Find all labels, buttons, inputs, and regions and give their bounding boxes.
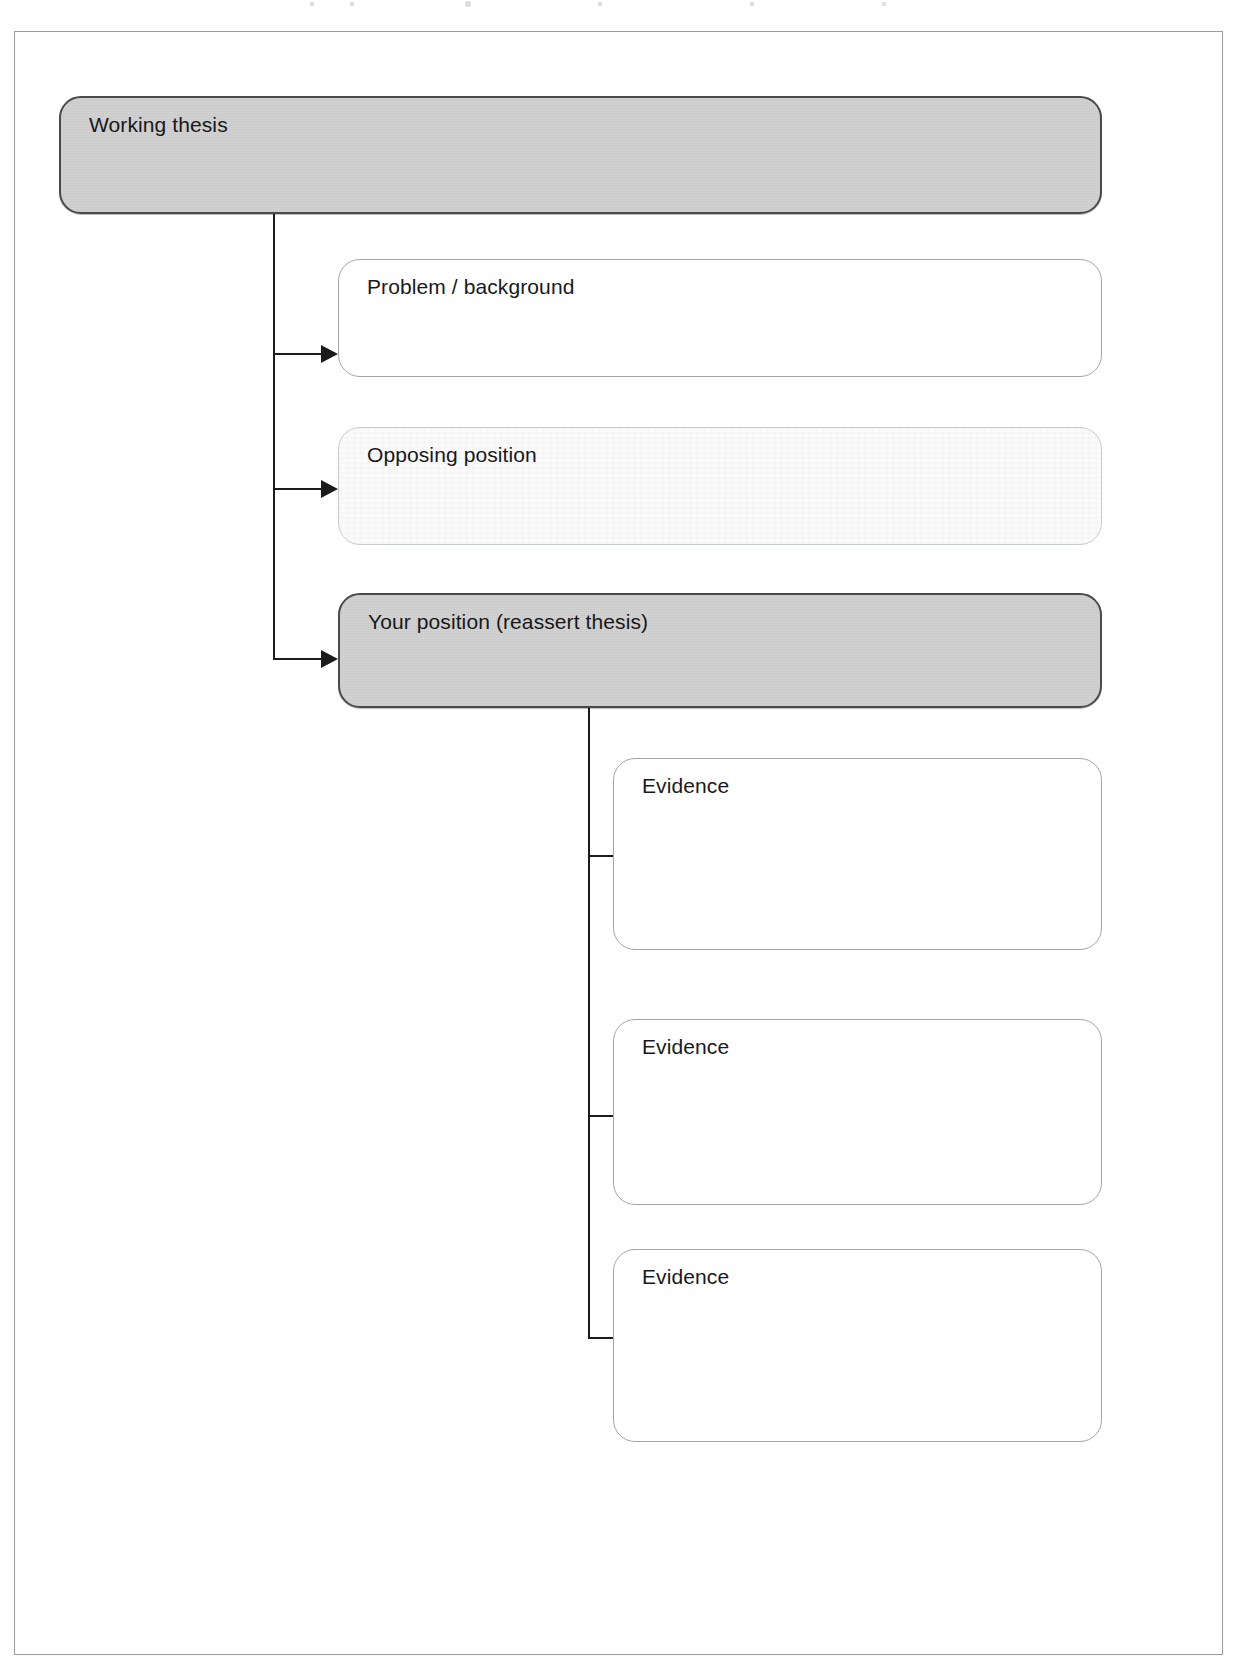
- node-label-opposing-position: Opposing position: [367, 442, 537, 468]
- connector-trunk-level1: [273, 214, 275, 660]
- arrow-head-opposing-position: [321, 480, 338, 498]
- page-frame: Working thesis Problem / background Oppo…: [14, 31, 1223, 1655]
- diagram-page: Working thesis Problem / background Oppo…: [0, 0, 1238, 1673]
- node-label-evidence-2: Evidence: [642, 1034, 729, 1060]
- node-problem-background[interactable]: Problem / background: [338, 259, 1102, 377]
- arrow-head-your-position: [321, 650, 338, 668]
- arrow-head-problem-background: [321, 345, 338, 363]
- node-label-your-position: Your position (reassert thesis): [368, 609, 648, 635]
- node-opposing-position[interactable]: Opposing position: [338, 427, 1102, 545]
- node-label-evidence-3: Evidence: [642, 1264, 729, 1290]
- node-label-evidence-1: Evidence: [642, 773, 729, 799]
- node-label-problem-background: Problem / background: [367, 274, 574, 300]
- node-working-thesis[interactable]: Working thesis: [59, 96, 1102, 214]
- node-label-working-thesis: Working thesis: [89, 112, 228, 138]
- scan-artifact: [300, 0, 920, 9]
- node-evidence-3[interactable]: Evidence: [613, 1249, 1102, 1442]
- node-evidence-1[interactable]: Evidence: [613, 758, 1102, 950]
- node-your-position[interactable]: Your position (reassert thesis): [338, 593, 1102, 708]
- connector-branch-your-position: [273, 658, 325, 660]
- node-evidence-2[interactable]: Evidence: [613, 1019, 1102, 1205]
- connector-trunk-level2: [588, 708, 590, 1339]
- connector-branch-problem-background: [273, 353, 325, 355]
- connector-branch-opposing-position: [273, 488, 325, 490]
